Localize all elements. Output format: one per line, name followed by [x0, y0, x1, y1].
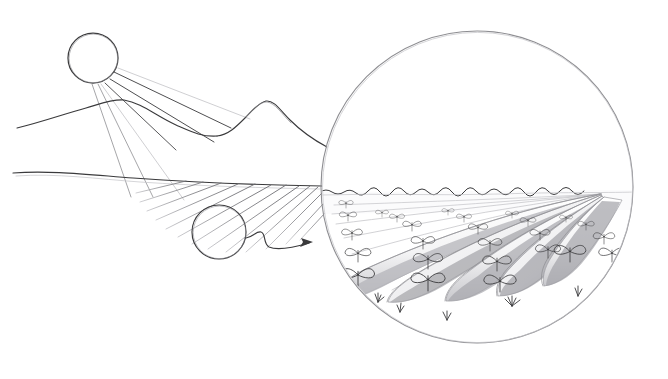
- sun-ray-7: [101, 84, 184, 200]
- grass-tuft: [397, 303, 404, 312]
- mountain-ridge-right: [217, 101, 327, 147]
- hatch-line-4: [156, 184, 238, 220]
- magnifier-small-circle-group: [192, 205, 246, 259]
- sun-ray-1: [114, 72, 231, 128]
- sun-group: [68, 33, 118, 83]
- hatch-line-11: [266, 193, 322, 249]
- hatched-field: [136, 181, 325, 252]
- sun-ray-2: [110, 79, 214, 142]
- connector-arrow-group: [246, 232, 313, 249]
- sketch-canvas: [0, 0, 668, 379]
- sun-ray-3: [105, 83, 176, 150]
- grass-tuft: [375, 293, 384, 302]
- seedling: [599, 248, 626, 262]
- mountain-range: [17, 100, 327, 147]
- grass-tuft: [575, 286, 582, 296]
- seedling: [342, 229, 363, 240]
- valley-floor: [13, 172, 322, 189]
- arrow-head-icon: [300, 238, 313, 247]
- mountain-ridge-left: [17, 100, 217, 136]
- detail-sky: [318, 28, 638, 193]
- hatch-line-1: [136, 181, 186, 193]
- connector-arrow-tail: [246, 232, 309, 249]
- sun-ray-6: [118, 68, 250, 119]
- landscape-group: [13, 33, 327, 259]
- hatch-line-8: [208, 186, 299, 249]
- sun-icon-inner-sketch: [69, 34, 118, 83]
- detail-contents: [318, 28, 640, 320]
- mountain-ridge-right-soft: [246, 102, 291, 123]
- seedling: [345, 248, 371, 262]
- sketch-figure: [0, 0, 668, 379]
- seedling: [389, 214, 404, 222]
- hatch-line-2: [140, 182, 203, 202]
- grass-tuft: [443, 311, 451, 320]
- grass-tuft: [505, 296, 520, 306]
- magnified-detail-group: [318, 28, 640, 343]
- hatch-line-13: [300, 213, 325, 240]
